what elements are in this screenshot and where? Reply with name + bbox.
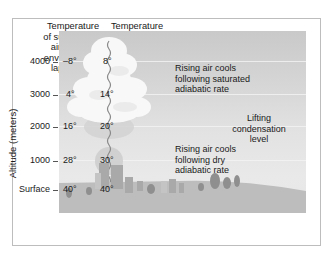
parcel-temp-4000: 8° (103, 56, 112, 67)
surrounding-temp-surface: 40° (63, 184, 77, 194)
surrounding-temp-4000: –8° (63, 56, 77, 66)
tick-surface (53, 190, 58, 191)
surrounding-temp-1000: 28° (63, 155, 77, 165)
atmosphere-illustration: 8° 14° 20° 30° 40° Rising air cools foll… (59, 31, 306, 213)
y-label-2000: 2000 (6, 121, 50, 131)
y-label-3000: 3000 (6, 89, 50, 99)
dry-rate-annotation: Rising air cools following dry adiabatic… (175, 144, 236, 176)
parcel-temp-3000: 14° (100, 89, 114, 100)
tick-2000 (53, 127, 58, 128)
tick-3000 (53, 95, 58, 96)
y-label-1000: 1000 (6, 155, 50, 165)
saturated-rate-annotation: Rising air cools following saturated adi… (175, 63, 250, 95)
lcl-annotation: Lifting condensation level (230, 113, 288, 145)
tick-1000 (53, 161, 58, 162)
parcel-temp-2000: 20° (100, 121, 114, 132)
parcel-temp-surface: 40° (100, 184, 114, 195)
surrounding-temp-3000: 4° (66, 89, 75, 99)
parcel-temp-1000: 30° (100, 155, 114, 166)
y-axis-title: Altitude (meters) (7, 109, 18, 179)
surrounding-temp-2000: 16° (63, 121, 77, 131)
tick-4000 (53, 62, 58, 63)
y-label-4000: 4000 (6, 56, 50, 66)
y-label-surface: Surface (6, 184, 50, 194)
